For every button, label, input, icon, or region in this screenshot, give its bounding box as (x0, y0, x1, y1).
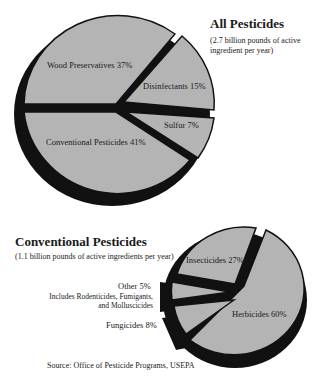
pie2-label-insecticides: Insecticides 27% (186, 255, 244, 265)
pie1-label-disinfectants: Disinfectants 15% (143, 81, 206, 91)
pie2-label-herbicides: Herbicides 60% (232, 309, 287, 319)
pie1-title: All Pesticides (210, 16, 284, 32)
pie2-other-note-line2: and Molluscicides (98, 301, 153, 310)
pie1-subtitle-line1: (2.7 billion pounds of active (210, 36, 300, 46)
pie2-subtitle: (1.1 billion pounds of active ingredient… (15, 252, 174, 262)
pie2-label-fungicides: Fungicides 8% (106, 320, 157, 330)
pie2-title: Conventional Pesticides (15, 234, 147, 250)
pie1-subtitle-line2: ingredient per year) (210, 46, 273, 56)
charts-canvas (0, 0, 318, 390)
source-note: Source: Office of Pesticide Programs, US… (47, 361, 195, 371)
pie1-label-conventional: Conventional Pesticides 41% (46, 137, 146, 147)
pie2-label-other: Other 5% (118, 281, 151, 291)
pie2-other-note-line1: Includes Rodenticides, Fumigants, (49, 292, 153, 301)
pie1-label-sulfur: Sulfur 7% (164, 120, 199, 130)
pie1-label-wood-preservatives: Wood Preservatives 37% (47, 60, 132, 70)
